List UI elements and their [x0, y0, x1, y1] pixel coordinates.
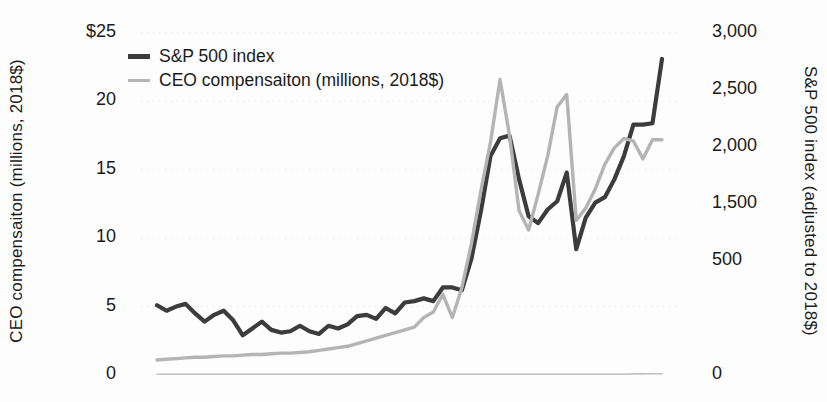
series-line-sp500 [157, 59, 662, 335]
gridlines [141, 33, 678, 307]
data-series-group [157, 59, 662, 374]
chart-figure: CEO compensaiton (millions, 2018$) S&P 5… [0, 0, 827, 402]
plot-area [0, 0, 827, 402]
